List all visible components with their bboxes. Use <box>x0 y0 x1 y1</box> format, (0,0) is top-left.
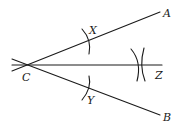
label-Z: Z <box>154 69 163 82</box>
label-Y: Y <box>87 94 96 107</box>
label-X: X <box>88 24 98 37</box>
label-B: B <box>162 111 171 124</box>
label-C: C <box>22 71 31 84</box>
label-A: A <box>162 7 171 20</box>
angle-bisector-diagram: A B C X Y Z <box>0 0 180 130</box>
ray-CB <box>12 59 160 115</box>
